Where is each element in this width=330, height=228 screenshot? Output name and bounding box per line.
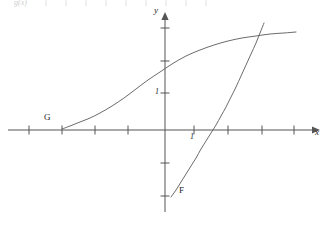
x-axis-label: x <box>315 128 319 137</box>
curve-f <box>171 23 264 197</box>
x-axis-tick-label-1: 1 <box>190 133 194 141</box>
graph-figure: g(x) <box>0 0 330 228</box>
x-axis <box>8 126 320 135</box>
curve-g-label: G <box>44 113 51 122</box>
curve-g <box>62 32 296 129</box>
y-axis-label: y <box>154 6 158 15</box>
y-axis-arrow <box>161 12 168 20</box>
y-axis-tick-label-1: 1 <box>155 88 159 96</box>
curve-f-label: F <box>179 186 184 195</box>
y-axis <box>161 12 170 212</box>
